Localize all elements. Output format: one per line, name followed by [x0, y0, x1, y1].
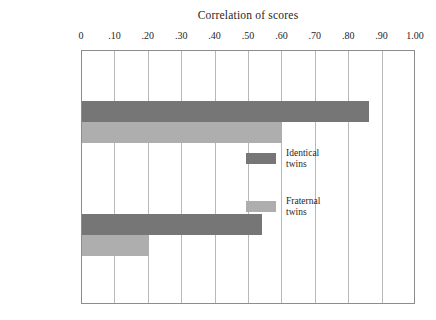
x-tick-label-0: 0 — [79, 30, 84, 41]
gridline-3 — [181, 51, 182, 303]
legend-label-line1: Identical — [286, 148, 319, 159]
legend-label-fraternal: Fraternaltwins — [286, 196, 320, 218]
x-tick-label-4: .40 — [208, 30, 221, 41]
bar-intelligence-fraternal — [82, 122, 282, 143]
legend-swatch-identical — [246, 153, 276, 164]
legend-label-line1: Fraternal — [286, 196, 320, 207]
gridline-4 — [215, 51, 216, 303]
chart-title: Correlation of scores — [81, 9, 415, 21]
legend-swatch-fraternal — [246, 201, 276, 212]
correlation-bar-chart: Correlation of scores 0.10.20.30.40.50.6… — [0, 0, 436, 320]
x-tick-label-10: 1.00 — [406, 30, 424, 41]
gridline-9 — [382, 51, 383, 303]
x-tick-label-1: .10 — [108, 30, 121, 41]
gridline-8 — [348, 51, 349, 303]
x-axis-tick-labels: 0.10.20.30.40.50.60.70.80.901.00 — [0, 30, 436, 44]
x-tick-label-2: .20 — [142, 30, 155, 41]
x-tick-label-8: .80 — [342, 30, 355, 41]
legend-label-line2: twins — [286, 207, 320, 218]
gridline-1 — [114, 51, 115, 303]
gridline-2 — [148, 51, 149, 303]
legend-label-line2: twins — [286, 159, 319, 170]
x-tick-label-7: .70 — [309, 30, 322, 41]
x-tick-label-5: .50 — [242, 30, 255, 41]
bar-intelligence-identical — [82, 101, 369, 122]
legend-label-identical: Identicaltwins — [286, 148, 319, 170]
x-tick-label-6: .60 — [275, 30, 288, 41]
bar-personality-identical — [82, 214, 262, 235]
bar-personality-fraternal — [82, 235, 149, 256]
x-tick-label-9: .90 — [375, 30, 388, 41]
x-tick-label-3: .30 — [175, 30, 188, 41]
chart-legend: IdenticaltwinsFraternaltwins — [246, 150, 334, 250]
